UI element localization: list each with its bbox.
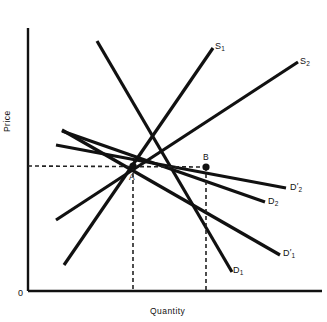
- point-b-marker: [202, 163, 209, 170]
- d1p-sub: 1: [292, 252, 296, 259]
- curve-label-s2: S2: [300, 56, 310, 66]
- curve-d1-prime: [62, 130, 280, 255]
- d1p-base: D: [283, 248, 290, 258]
- s1-sub: 1: [221, 45, 225, 52]
- curve-group: [56, 41, 298, 272]
- curve-label-d1: D1: [233, 265, 244, 275]
- point-a-marker: [129, 162, 136, 169]
- point-b-label: B: [203, 152, 209, 162]
- d2-base: D: [268, 196, 275, 206]
- origin-label: 0: [18, 288, 23, 298]
- supply-demand-figure: Price Quantity 0 A B S1 S2 D1 D′1 D2 D′2: [0, 0, 327, 322]
- point-a-label: A: [129, 172, 135, 182]
- d2p-base: D: [290, 182, 297, 192]
- d1-sub: 1: [240, 269, 244, 276]
- s2-sub: 2: [306, 60, 310, 67]
- curve-label-d1-prime: D′1: [283, 248, 295, 258]
- d2p-sub: 2: [299, 186, 303, 193]
- y-axis-label: Price: [2, 110, 12, 132]
- curve-label-d2: D2: [268, 196, 279, 206]
- d1-base: D: [233, 265, 240, 275]
- d2-sub: 2: [275, 200, 279, 207]
- chart-canvas: [0, 0, 327, 322]
- curve-label-d2-prime: D′2: [290, 182, 302, 192]
- x-axis-label: Quantity: [150, 306, 185, 316]
- curve-label-s1: S1: [215, 41, 225, 51]
